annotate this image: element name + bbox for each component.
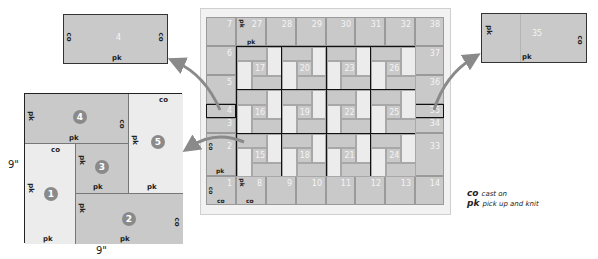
legend: cocast on pkpick up and knit [467, 188, 539, 208]
arrow-to-piece-4 [176, 62, 220, 110]
legend-item-pk: pkpick up and knit [467, 198, 539, 208]
arrow-to-piece-35 [434, 58, 473, 110]
arrows-layer [0, 0, 598, 259]
legend-item-co: cocast on [467, 188, 539, 198]
arrow-to-square [190, 137, 244, 147]
